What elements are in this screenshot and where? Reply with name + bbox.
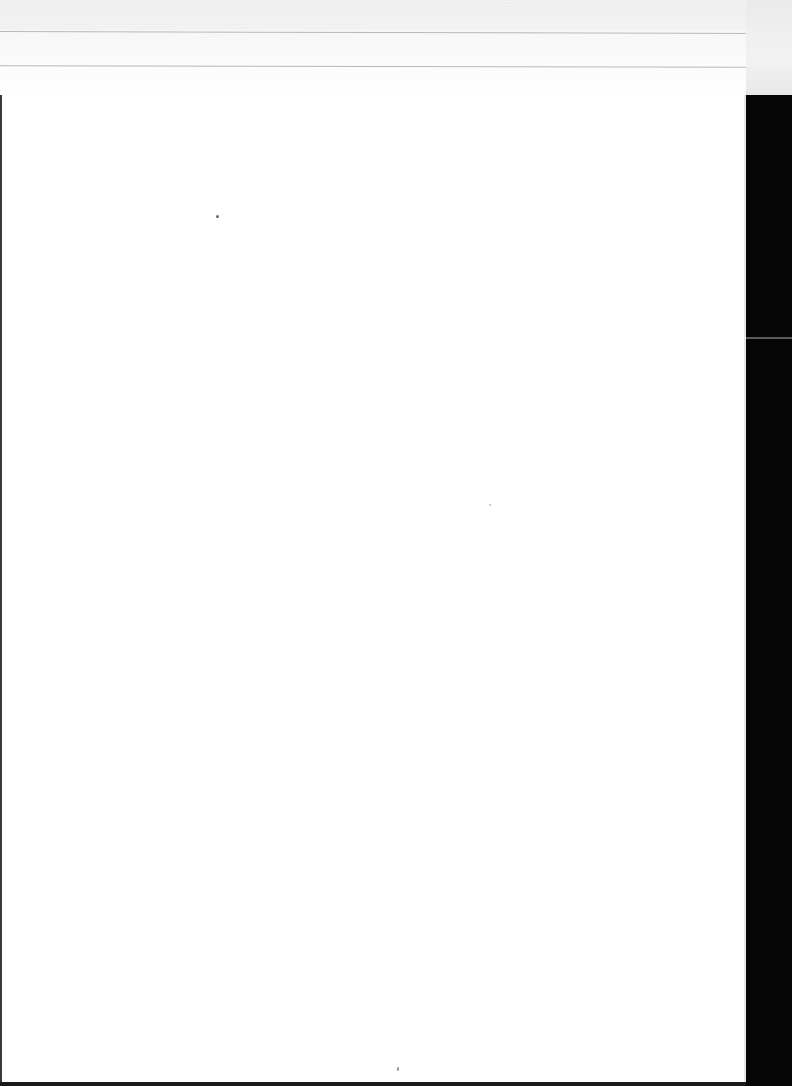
page-bottom-edge [0, 1082, 746, 1086]
paper-stack-edge [0, 0, 792, 95]
dust-speck [489, 504, 491, 506]
scanned-document [0, 0, 792, 1086]
blank-page [0, 95, 746, 1085]
backdrop-line [746, 337, 792, 339]
stack-corner [746, 0, 792, 95]
dust-speck [397, 1067, 399, 1071]
stack-sheet-line [0, 31, 792, 34]
stack-sheet-line [0, 65, 792, 67]
dust-speck [216, 215, 219, 218]
scanner-backdrop [746, 95, 792, 1086]
page-right-edge [744, 95, 746, 1085]
stack-texture [0, 0, 792, 30]
